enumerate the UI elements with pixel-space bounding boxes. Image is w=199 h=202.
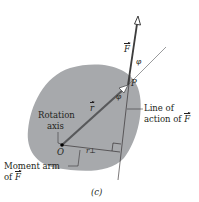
diagram-graphics [0,0,199,202]
rotation-axis-label-line1: Rotation [38,111,75,120]
line-of-action-label-line1: Line of [144,104,174,113]
torque-diagram: F φ P φ r Rotation axis O r⊥ Line of act… [0,0,199,202]
force-vector [128,24,137,85]
phi-top-label: φ [136,58,141,66]
moment-arm-label-line2: of F [4,173,21,182]
origin-label: O [57,148,64,157]
phi-bottom-label: φ [116,93,121,101]
force-label: F [124,45,130,54]
r-vector-label: r [90,104,94,113]
figure-caption: (c) [91,188,102,197]
rotation-axis-label-line2: axis [47,122,64,131]
r-perp-label: r⊥ [86,148,96,155]
line-of-action-label-line2: action of F [144,115,190,124]
point-p-label: P [131,79,137,88]
moment-arm-label-line1: Moment arm [4,162,60,171]
force-vector-arrowhead [135,16,141,25]
